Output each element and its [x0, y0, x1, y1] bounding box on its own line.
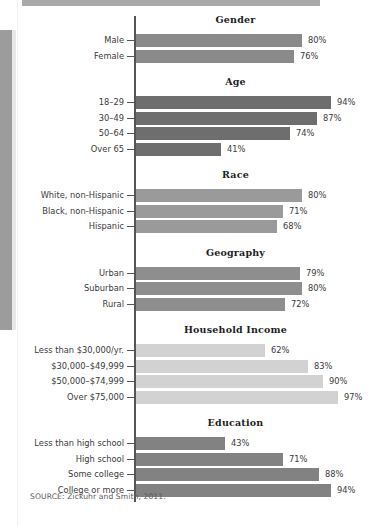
bar-category-label: 30–49 [0, 112, 124, 125]
axis-tick [127, 40, 134, 41]
axis-tick [127, 226, 134, 227]
bar [135, 127, 290, 140]
top-rule-decoration [22, 0, 320, 6]
bar-category-label: Black, non-Hispanic [0, 205, 124, 218]
bar-value-label: 97% [344, 391, 362, 404]
bar-row: Over $75,00097% [0, 391, 386, 404]
group-title-geography: Geography [134, 247, 337, 258]
group-title-age: Age [134, 76, 337, 87]
source-note: SOURCE: Zickuhr and Smith, 2011. [30, 492, 166, 501]
bar [135, 360, 308, 373]
bar [135, 50, 294, 63]
bar-row: High school71% [0, 453, 386, 466]
axis-tick [127, 381, 134, 382]
bar [135, 189, 302, 202]
bar [135, 282, 302, 295]
bar-category-label: Female [0, 50, 124, 63]
axis-tick [127, 195, 134, 196]
bar-value-label: 80% [308, 189, 326, 202]
bar [135, 298, 285, 311]
bar-category-label: 50–64 [0, 127, 124, 140]
bar-value-label: 71% [289, 205, 307, 218]
bar-category-label: 18–29 [0, 96, 124, 109]
bar-row: $50,000–$74,99990% [0, 375, 386, 388]
group-title-race: Race [134, 169, 337, 180]
axis-tick [127, 288, 134, 289]
bar-row: Female76% [0, 50, 386, 63]
bar-row: Suburban80% [0, 282, 386, 295]
bar-row: White, non-Hispanic80% [0, 189, 386, 202]
axis-tick [127, 397, 134, 398]
bar-row: 30–4987% [0, 112, 386, 125]
bar-category-label: Over 65 [0, 143, 124, 156]
bar-category-label: Some college [0, 468, 124, 481]
axis-tick [127, 366, 134, 367]
axis-tick [127, 273, 134, 274]
axis-tick [127, 118, 134, 119]
bar [135, 143, 221, 156]
bar-value-label: 94% [337, 96, 355, 109]
bar [135, 437, 225, 450]
bar [135, 453, 283, 466]
bar-row: 50–6474% [0, 127, 386, 140]
bar-category-label: $30,000–$49,999 [0, 360, 124, 373]
bar-row: 18–2994% [0, 96, 386, 109]
bar-value-label: 71% [289, 453, 307, 466]
bar-category-label: Less than high school [0, 437, 124, 450]
bar-value-label: 62% [271, 344, 289, 357]
bar-value-label: 90% [329, 375, 347, 388]
bar-category-label: Suburban [0, 282, 124, 295]
bar-value-label: 79% [306, 267, 324, 280]
bar [135, 267, 300, 280]
bar-category-label: White, non-Hispanic [0, 189, 124, 202]
bar-category-label: High school [0, 453, 124, 466]
group-title-gender: Gender [134, 14, 337, 25]
axis-tick [127, 443, 134, 444]
bar [135, 375, 323, 388]
axis-tick [127, 350, 134, 351]
bar [135, 344, 265, 357]
axis-tick [127, 459, 134, 460]
bar-category-label: Urban [0, 267, 124, 280]
axis-tick [127, 133, 134, 134]
bar-row: Over 6541% [0, 143, 386, 156]
axis-tick [127, 474, 134, 475]
bar-value-label: 83% [314, 360, 332, 373]
axis-tick [127, 149, 134, 150]
bar-category-label: Rural [0, 298, 124, 311]
bar-row: Rural72% [0, 298, 386, 311]
axis-tick [127, 102, 134, 103]
bar [135, 34, 302, 47]
axis-tick [127, 490, 134, 491]
bar-row: Black, non-Hispanic71% [0, 205, 386, 218]
bar [135, 96, 331, 109]
bar-category-label: Hispanic [0, 220, 124, 233]
bar-value-label: 87% [323, 112, 341, 125]
bar-row: Urban79% [0, 267, 386, 280]
bar-row: $30,000–$49,99983% [0, 360, 386, 373]
bar [135, 468, 319, 481]
page-canvas: GenderMale80%Female76%Age18–2994%30–4987… [0, 0, 386, 526]
group-title-household-income: Household Income [134, 324, 337, 335]
value-axis-baseline [134, 16, 136, 502]
bar-value-label: 80% [308, 282, 326, 295]
bar-value-label: 88% [325, 468, 343, 481]
group-title-education: Education [134, 417, 337, 428]
bar-category-label: Less than $30,000/yr. [0, 344, 124, 357]
bar-row: Male80% [0, 34, 386, 47]
bar-category-label: Male [0, 34, 124, 47]
horizontal-bar-chart: GenderMale80%Female76%Age18–2994%30–4987… [0, 14, 386, 484]
bar [135, 112, 317, 125]
axis-tick [127, 56, 134, 57]
bar-category-label: $50,000–$74,999 [0, 375, 124, 388]
bar-value-label: 41% [227, 143, 245, 156]
bar-value-label: 72% [291, 298, 309, 311]
bar-row: Less than high school43% [0, 437, 386, 450]
bar-row: Hispanic68% [0, 220, 386, 233]
bar-value-label: 74% [296, 127, 314, 140]
bar-value-label: 76% [300, 50, 318, 63]
axis-tick [127, 211, 134, 212]
bar-value-label: 43% [231, 437, 249, 450]
bar-value-label: 68% [283, 220, 301, 233]
bar-value-label: 94% [337, 484, 355, 497]
